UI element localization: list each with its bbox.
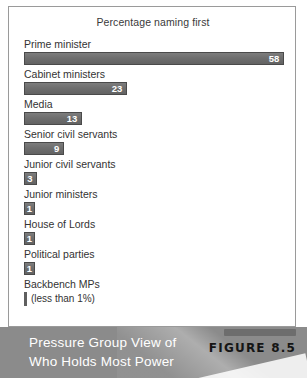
bar-value-label: 1 <box>27 202 34 215</box>
bar-row: Political parties1 <box>24 248 290 275</box>
bar: 1 <box>24 262 35 275</box>
chart-title: Percentage naming first <box>9 16 297 28</box>
bar-row: Media13 <box>24 98 290 125</box>
bar-row: Backbench MPs(less than 1%) <box>24 278 290 305</box>
bar-row-label: Senior civil servants <box>24 128 290 141</box>
bar-value-label: 13 <box>67 112 82 125</box>
bar-row: Prime minister58 <box>24 38 290 65</box>
bar-row-label: House of Lords <box>24 218 290 231</box>
caption-line-2: Who Holds Most Power <box>29 352 229 371</box>
bar: 3 <box>24 172 37 185</box>
bar: 1 <box>24 202 35 215</box>
bar-line: 1 <box>24 202 290 215</box>
bar-row: House of Lords1 <box>24 218 290 245</box>
bar-line: 3 <box>24 172 290 185</box>
bar-row-label: Junior civil servants <box>24 158 290 171</box>
bar-line: 9 <box>24 142 290 155</box>
bar-rows: Prime minister58Cabinet ministers23Media… <box>24 38 290 308</box>
bar-value-label: 58 <box>269 52 284 65</box>
bar-row: Cabinet ministers23 <box>24 68 290 95</box>
bar-row-label: Prime minister <box>24 38 290 51</box>
bar-value-label: 9 <box>54 142 63 155</box>
figure-container: Percentage naming first Prime minister58… <box>0 0 307 384</box>
bar-line: (less than 1%) <box>24 292 290 305</box>
bar-note: (less than 1%) <box>27 292 95 305</box>
bar <box>24 292 27 306</box>
chart-panel: Percentage naming first Prime minister58… <box>8 6 296 327</box>
bar: 1 <box>24 232 35 245</box>
bar-value-label: 23 <box>112 82 127 95</box>
bar-line: 1 <box>24 232 290 245</box>
bar-row-label: Junior ministers <box>24 188 290 201</box>
caption-title: Pressure Group View of Who Holds Most Po… <box>29 333 229 371</box>
bar-line: 13 <box>24 112 290 125</box>
figure-tab-bar <box>224 329 296 336</box>
bar-value-label: 1 <box>27 232 34 245</box>
bar: 13 <box>24 112 82 125</box>
bar: 58 <box>24 52 284 65</box>
figure-number-label: FIGURE 8.5 <box>209 341 296 355</box>
bar-row: Junior civil servants3 <box>24 158 290 185</box>
bar: 9 <box>24 142 64 155</box>
bar-row-label: Media <box>24 98 290 111</box>
bar-line: 58 <box>24 52 290 65</box>
bar-row-label: Backbench MPs <box>24 278 290 291</box>
bar-value-label: 3 <box>27 172 36 185</box>
bar-line: 1 <box>24 262 290 275</box>
bar: 23 <box>24 82 127 95</box>
bar-row-label: Political parties <box>24 248 290 261</box>
bar-value-label: 1 <box>27 262 34 275</box>
caption-band: Pressure Group View of Who Holds Most Po… <box>0 327 307 378</box>
bar-row: Junior ministers1 <box>24 188 290 215</box>
bar-line: 23 <box>24 82 290 95</box>
page-bottom-edge <box>0 378 307 384</box>
caption-line-1: Pressure Group View of <box>29 333 229 352</box>
bar-row: Senior civil servants9 <box>24 128 290 155</box>
bar-row-label: Cabinet ministers <box>24 68 290 81</box>
